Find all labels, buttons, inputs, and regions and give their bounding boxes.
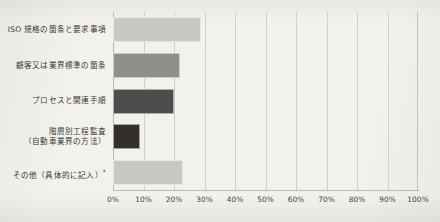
category-label-line: ISO 規格の箇条と要求事項 <box>8 25 106 34</box>
category-label-line: プロセスと関連手順 <box>32 96 106 105</box>
x-tick-label: 60% <box>279 195 313 204</box>
x-tick-label: 100% <box>401 195 435 204</box>
category-label-line: 階層別工程監査 <box>49 127 106 136</box>
category-label: その他（具体的に記入）* <box>13 167 106 180</box>
bar <box>113 124 140 149</box>
bar <box>113 53 180 78</box>
x-tick-label: 70% <box>310 195 344 204</box>
horizontal-bar-chart: ISO 規格の箇条と要求事項顧客又は業界標準の箇条プロセスと関連手順階層別工程監… <box>0 0 440 222</box>
x-tick-label: 20% <box>157 195 191 204</box>
bar <box>113 160 183 185</box>
x-tick-label: 10% <box>127 195 161 204</box>
x-tick-label: 90% <box>371 195 405 204</box>
x-tick-label: 40% <box>218 195 252 204</box>
bar <box>113 17 201 42</box>
category-label: ISO 規格の箇条と要求事項 <box>8 25 106 35</box>
category-label: プロセスと関連手順 <box>32 96 106 106</box>
x-tick-label: 80% <box>340 195 374 204</box>
category-label: 顧客又は業界標準の箇条 <box>16 61 106 71</box>
category-label-line: 顧客又は業界標準の箇条 <box>16 61 106 70</box>
category-label-line: （自動車業界の方法） <box>24 137 106 147</box>
category-label: 階層別工程監査（自動車業界の方法） <box>24 127 106 146</box>
footnote-marker: * <box>103 168 106 175</box>
x-tick-label: 0% <box>96 195 130 204</box>
x-tick-label: 30% <box>188 195 222 204</box>
x-axis-line <box>113 190 419 191</box>
x-tick-label: 50% <box>249 195 283 204</box>
bar <box>113 89 174 114</box>
category-label-line: その他（具体的に記入） <box>13 171 103 180</box>
